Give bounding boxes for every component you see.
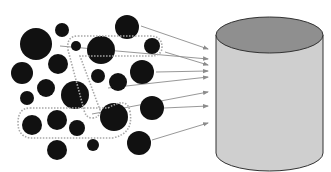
data-item-circle <box>71 41 81 51</box>
data-item-circle <box>144 38 160 54</box>
data-item-circle <box>47 140 67 160</box>
data-item-circle <box>37 79 55 97</box>
cylinder-body <box>216 35 323 171</box>
database-cylinder-icon <box>216 17 323 171</box>
data-item-circle <box>127 131 151 155</box>
data-item-circle <box>130 60 154 84</box>
data-item-circle <box>91 69 105 83</box>
data-item-circle <box>20 91 34 105</box>
data-item-circle <box>22 115 42 135</box>
data-item-circle <box>55 23 69 37</box>
data-item-circle <box>11 62 33 84</box>
data-item-circle <box>61 81 89 109</box>
data-item-circle <box>100 103 128 131</box>
data-item-circle <box>140 96 164 120</box>
data-flow-diagram <box>0 0 331 172</box>
data-item-circle <box>87 139 99 151</box>
cylinder-top <box>216 17 323 53</box>
data-item-circle <box>87 36 115 64</box>
data-item-circle <box>20 28 52 60</box>
data-item-circle <box>69 120 85 136</box>
data-item-circle <box>47 110 67 130</box>
data-item-circle <box>109 73 127 91</box>
data-item-circle <box>48 54 68 74</box>
